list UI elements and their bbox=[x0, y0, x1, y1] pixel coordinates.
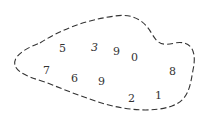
digit-7: 7 bbox=[43, 64, 50, 77]
dashed-region-outline bbox=[15, 15, 195, 110]
digit-0: 0 bbox=[131, 51, 138, 64]
digit-1: 1 bbox=[155, 89, 162, 102]
digit-8: 8 bbox=[169, 65, 176, 78]
digit-5: 5 bbox=[59, 42, 66, 55]
digit-2: 2 bbox=[128, 92, 135, 105]
digit-6: 6 bbox=[71, 72, 78, 85]
set-diagram: 5 3 9 0 7 6 9 8 2 1 bbox=[0, 0, 207, 119]
digit-9-top: 9 bbox=[113, 45, 120, 58]
digit-9-bottom: 9 bbox=[98, 75, 105, 88]
digit-3: 3 bbox=[91, 41, 98, 54]
